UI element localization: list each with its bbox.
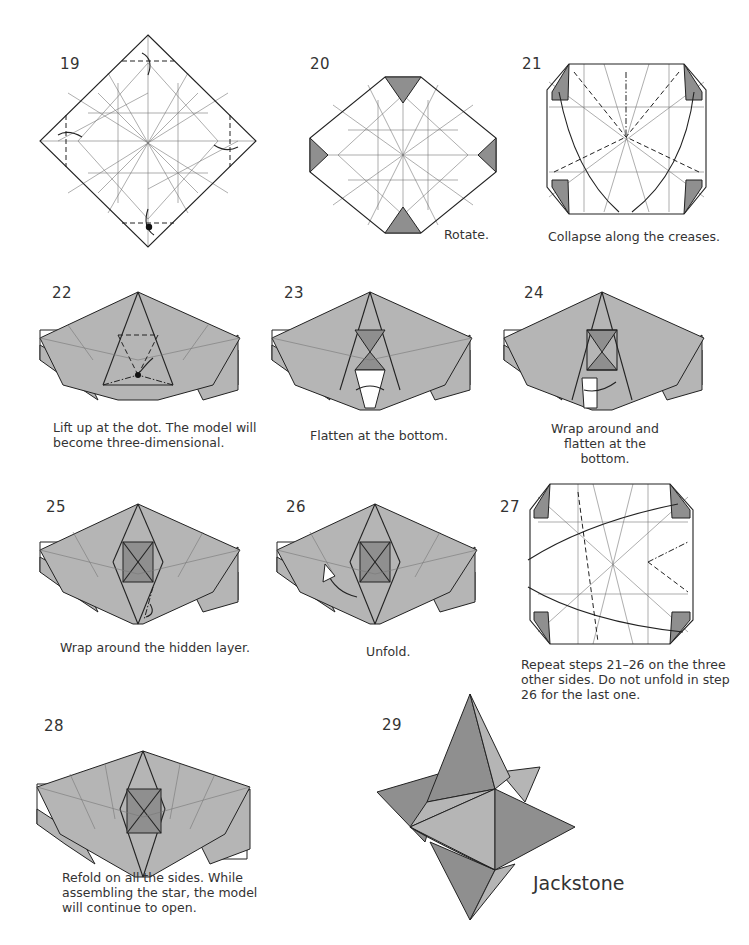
folded-corner xyxy=(552,64,569,100)
reference-dot xyxy=(146,224,152,230)
step-number-20: 20 xyxy=(310,55,330,73)
model-body xyxy=(40,292,240,400)
folded-corner xyxy=(684,180,702,214)
step-number-27: 27 xyxy=(500,498,520,516)
step-24-diagram xyxy=(502,290,707,415)
step-21-caption: Collapse along the creases. xyxy=(548,229,720,244)
step-19-diagram xyxy=(38,33,258,253)
step-26-caption: Unfold. xyxy=(366,644,411,659)
step-22-caption: Lift up at the dot. The model will becom… xyxy=(53,420,263,450)
step-22-diagram xyxy=(38,290,243,410)
step-24-caption: Wrap around and flatten at the bottom. xyxy=(545,421,665,466)
step-20-diagram xyxy=(308,75,498,235)
step-23-caption: Flatten at the bottom. xyxy=(310,428,448,443)
step-20-caption: Rotate. xyxy=(444,227,489,242)
folded-corner-left xyxy=(310,138,328,172)
rotate-arrow-bottom xyxy=(146,209,154,235)
step-number-21: 21 xyxy=(522,55,542,73)
step-23-diagram xyxy=(270,290,475,415)
repeat-arrow-top xyxy=(528,504,678,560)
crease-pattern xyxy=(40,35,256,247)
folded-corner-top xyxy=(385,77,421,103)
lift-dot xyxy=(135,372,141,378)
step-28-diagram xyxy=(35,749,255,879)
star-point-right xyxy=(495,789,575,870)
step-25-diagram xyxy=(38,502,243,627)
folded-corner-bottom xyxy=(385,207,421,233)
step-number-28: 28 xyxy=(44,717,64,735)
folded-corner-right xyxy=(478,138,496,172)
step-27-diagram xyxy=(528,482,698,647)
step-25-caption: Wrap around the hidden layer. xyxy=(60,640,250,655)
step-21-diagram xyxy=(544,62,709,217)
model-title: Jackstone xyxy=(533,872,624,894)
step-26-diagram xyxy=(275,502,480,627)
step-28-caption: Refold on all the sides. While assemblin… xyxy=(62,870,262,915)
